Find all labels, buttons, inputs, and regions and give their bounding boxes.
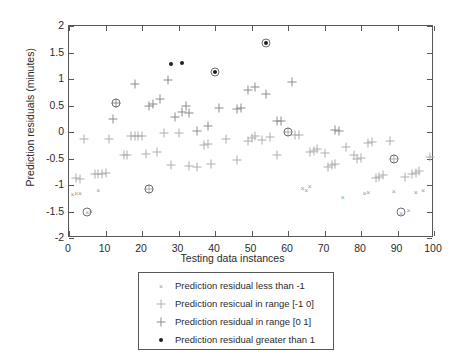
data-point-plus-light — [141, 150, 150, 159]
highlighted-point-ring — [211, 67, 220, 76]
data-point-plus-light — [157, 300, 166, 309]
legend-item: ×Prediction residual less than -1 — [139, 277, 333, 295]
y-tick-right — [427, 26, 432, 27]
data-point-dot — [213, 70, 217, 74]
legend-marker — [139, 331, 175, 349]
y-tick — [69, 132, 74, 133]
y-tick-label: -1 — [22, 179, 64, 190]
data-point-plus-light — [119, 151, 128, 160]
data-point-small-x: × — [304, 188, 309, 193]
data-point-small-x: × — [413, 189, 418, 194]
y-tick-label: 2 — [22, 20, 64, 31]
x-tick-label: 10 — [99, 243, 111, 254]
data-point-plus-light — [134, 131, 143, 140]
data-point-plus-light — [258, 135, 267, 144]
data-point-plus-light — [123, 150, 132, 159]
legend-label: Prediction residual greater than 1 — [175, 335, 315, 345]
data-point-dot — [264, 41, 268, 45]
data-point-plus-light — [324, 162, 333, 171]
data-point-plus-light — [364, 138, 373, 147]
data-point-plus-light — [72, 173, 81, 182]
y-tick — [69, 159, 74, 160]
data-point-plus-light — [331, 159, 340, 168]
legend-label: Prediction resicual in range [-1 0] — [175, 299, 314, 309]
data-point-plus-light — [159, 128, 168, 137]
data-point-plus-light — [313, 145, 322, 154]
data-point-plus — [232, 104, 241, 113]
x-tick-label: 20 — [135, 243, 147, 254]
data-point-plus — [243, 85, 252, 94]
plot-area: ××××××××××××××××× — [68, 25, 433, 237]
x-tick-top — [69, 26, 70, 31]
data-point-plus-light — [386, 137, 395, 146]
x-tick-label: 0 — [65, 243, 71, 254]
y-tick-right — [427, 159, 432, 160]
data-point-plus — [262, 89, 271, 98]
data-point-plus-light — [408, 170, 417, 179]
data-point-plus — [236, 103, 245, 112]
data-point-plus-light — [243, 137, 252, 146]
data-point-dot — [159, 338, 163, 342]
data-point-plus — [192, 126, 201, 135]
data-point-small-x: × — [406, 208, 411, 213]
x-tick-top — [215, 26, 216, 31]
y-tick — [69, 212, 74, 213]
highlighted-point-ring — [389, 155, 398, 164]
data-point-small-x: × — [88, 208, 93, 213]
data-point-plus — [112, 98, 121, 107]
x-tick-label: 80 — [354, 243, 366, 254]
data-point-plus — [214, 104, 223, 113]
y-tick — [69, 238, 74, 239]
highlighted-point-ring — [145, 185, 154, 194]
legend-label: Prediction residual less than -1 — [175, 281, 305, 291]
data-point-plus — [170, 113, 179, 122]
scatter-plot-figure: Prediction residuals (minutes) ×××××××××… — [0, 0, 465, 362]
data-point-plus-light — [130, 131, 139, 140]
data-point-plus-light — [167, 160, 176, 169]
legend-item: Prediction resicual in range [-1 0] — [139, 295, 333, 313]
data-point-plus-light — [327, 161, 336, 170]
data-point-small-x: × — [399, 210, 404, 215]
data-point-plus-light — [353, 154, 362, 163]
y-tick — [69, 106, 74, 107]
data-point-plus — [181, 102, 190, 111]
data-point-plus-light — [145, 185, 154, 194]
data-point-plus-light — [185, 162, 194, 171]
data-point-plus-light — [192, 162, 201, 171]
x-tick-top — [252, 26, 253, 31]
y-tick-label: 0.5 — [22, 99, 64, 110]
data-point-small-x: × — [70, 192, 75, 197]
y-tick-right — [427, 53, 432, 54]
data-point-plus-light — [294, 131, 303, 140]
y-tick — [69, 53, 74, 54]
x-tick-label: 70 — [318, 243, 330, 254]
legend-item: Prediction residual in range [0 1] — [139, 313, 333, 331]
y-tick-label: 1.5 — [22, 46, 64, 57]
data-point-plus — [251, 82, 260, 91]
x-tick — [142, 231, 143, 236]
legend-marker — [139, 295, 175, 313]
x-tick-top — [398, 26, 399, 31]
data-point-plus — [163, 76, 172, 85]
data-point-small-x: × — [366, 190, 371, 195]
data-point-small-x: × — [96, 188, 101, 193]
data-point-small-x: × — [362, 191, 367, 196]
data-point-plus-light — [79, 134, 88, 143]
data-point-small-x: × — [391, 189, 396, 194]
x-tick-top — [106, 26, 107, 31]
legend-marker — [139, 313, 175, 331]
x-axis-title: Testing data instances — [0, 253, 465, 264]
highlighted-point-ring — [112, 98, 121, 107]
data-point-plus-light — [375, 172, 384, 181]
data-point-plus — [273, 116, 282, 125]
data-point-plus — [178, 108, 187, 117]
y-tick — [69, 185, 74, 186]
data-point-plus-light — [320, 148, 329, 157]
data-point-plus-light — [75, 174, 84, 183]
data-point-plus-light — [101, 169, 110, 178]
x-tick — [325, 231, 326, 236]
y-tick-label: -0.5 — [22, 152, 64, 163]
y-tick-right — [427, 132, 432, 133]
data-point-plus — [108, 115, 117, 124]
data-point-plus-light — [90, 169, 99, 178]
